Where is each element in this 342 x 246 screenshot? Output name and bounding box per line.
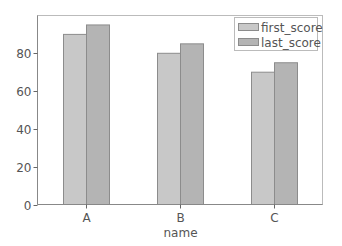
bar-last_score-B — [181, 44, 204, 205]
legend-swatch-first_score — [239, 24, 259, 31]
legend-swatch-last_score — [239, 39, 259, 46]
bar-chart: 020406080ABCnamefirst_scorelast_score — [0, 0, 342, 246]
y-tick-label: 20 — [16, 161, 31, 175]
bar-first_score-A — [64, 34, 87, 204]
bar-first_score-B — [158, 53, 181, 204]
bar-last_score-C — [275, 63, 298, 205]
bar-last_score-A — [87, 25, 110, 205]
x-tick-label: B — [176, 211, 184, 225]
legend-label-first_score: first_score — [261, 21, 323, 35]
y-tick-label: 0 — [24, 199, 32, 213]
legend-label-last_score: last_score — [261, 36, 321, 50]
x-tick-label: A — [82, 211, 91, 225]
x-axis-title: name — [163, 226, 197, 240]
y-tick-label: 80 — [16, 47, 31, 61]
y-tick-label: 40 — [16, 123, 31, 137]
bar-first_score-C — [252, 72, 275, 204]
x-tick-label: C — [270, 211, 278, 225]
y-tick-label: 60 — [16, 85, 31, 99]
